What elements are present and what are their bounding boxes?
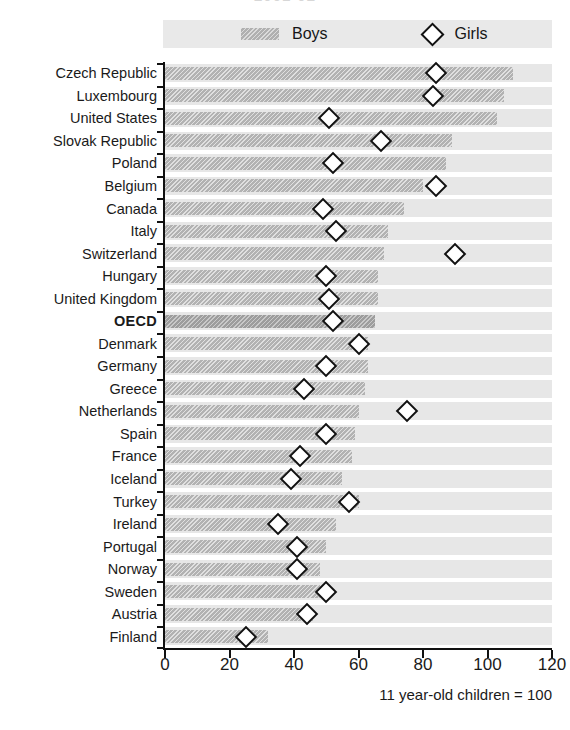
x-axis-tick-label: 80 (414, 655, 433, 675)
bar-boys (165, 360, 368, 373)
x-axis-tick-label: 0 (160, 655, 169, 675)
legend-girls-diamond-icon (420, 22, 444, 46)
category-label: Norway (0, 562, 157, 576)
bar-boys (165, 157, 446, 170)
category-label: Canada (0, 202, 157, 216)
legend-boys-label: Boys (292, 25, 328, 43)
bar-boys (165, 337, 368, 350)
category-label: Germany (0, 359, 157, 373)
x-axis-tick-label: 120 (538, 655, 566, 675)
bar-boys (165, 247, 384, 260)
category-label: Austria (0, 607, 157, 621)
bar-boys (165, 89, 504, 102)
y-axis-tick (157, 559, 164, 561)
category-label: Greece (0, 382, 157, 396)
bar-boys (165, 270, 378, 283)
category-label: Ireland (0, 517, 157, 531)
x-axis-tick-label: 100 (473, 655, 501, 675)
category-axis-labels: Czech RepublicLuxembourgUnited StatesSlo… (0, 62, 157, 648)
category-label: Belgium (0, 179, 157, 193)
bar-boys (165, 202, 404, 215)
category-label: Spain (0, 427, 157, 441)
y-axis-tick (157, 401, 164, 403)
y-axis-tick (157, 108, 164, 110)
category-label: Turkey (0, 495, 157, 509)
y-axis-tick (157, 131, 164, 133)
y-axis-tick (157, 647, 164, 649)
category-label: Poland (0, 156, 157, 170)
chart-legend: Boys Girls (163, 20, 552, 48)
y-axis-tick (157, 288, 164, 290)
category-label: France (0, 449, 157, 463)
x-axis-tick-label: 60 (349, 655, 368, 675)
category-label: OECD (0, 314, 157, 328)
bar-boys (165, 518, 336, 531)
axis-footnote: 11 year-old children = 100 (379, 686, 552, 703)
x-axis-tick-label: 20 (220, 655, 239, 675)
y-axis-tick (157, 581, 164, 583)
category-label: Hungary (0, 269, 157, 283)
bar-boys (165, 67, 513, 80)
bar-boys (165, 134, 452, 147)
category-label: Portugal (0, 540, 157, 554)
bar-boys (165, 472, 342, 485)
x-axis-tick-label: 40 (285, 655, 304, 675)
bar-boys (165, 450, 352, 463)
y-axis-tick (157, 514, 164, 516)
y-axis-tick (157, 626, 164, 628)
bar-boys (165, 225, 388, 238)
category-label: Sweden (0, 585, 157, 599)
y-axis-tick (157, 243, 164, 245)
y-axis-tick (157, 604, 164, 606)
y-axis-tick (157, 198, 164, 200)
category-label: Luxembourg (0, 89, 157, 103)
category-label: Netherlands (0, 404, 157, 418)
bar-boys (165, 585, 320, 598)
bar-boys (165, 405, 359, 418)
y-axis-tick (157, 424, 164, 426)
category-label: Czech Republic (0, 66, 157, 80)
category-label: Italy (0, 224, 157, 238)
bar-boys (165, 382, 365, 395)
y-axis-tick (157, 86, 164, 88)
category-label: Slovak Republic (0, 134, 157, 148)
y-axis-tick (157, 379, 164, 381)
category-label: Denmark (0, 337, 157, 351)
bar-boys (165, 292, 378, 305)
legend-girls-label: Girls (455, 25, 488, 43)
category-label: United Kingdom (0, 292, 157, 306)
y-axis-tick (157, 356, 164, 358)
y-axis-tick (157, 176, 164, 178)
x-axis-tick-labels: 020406080100120 (163, 655, 563, 679)
bar-boys (165, 608, 313, 621)
title-text: 2001-02 (0, 0, 570, 4)
y-axis-tick (157, 63, 164, 65)
y-axis-tick (157, 446, 164, 448)
y-axis-tick (157, 469, 164, 471)
category-label: Finland (0, 630, 157, 644)
y-axis-tick (157, 491, 164, 493)
category-label: Iceland (0, 472, 157, 486)
y-axis-tick (157, 536, 164, 538)
bar-boys (165, 179, 423, 192)
category-label: Switzerland (0, 247, 157, 261)
y-axis-tick (157, 221, 164, 223)
clipped-title: 2001-02 (0, 0, 570, 11)
category-label: United States (0, 111, 157, 125)
chart-container: 2001-02 Boys Girls Czech RepublicLuxembo… (0, 0, 570, 730)
y-axis-tick (157, 311, 164, 313)
y-axis-tick (157, 153, 164, 155)
legend-boys-swatch (241, 28, 279, 40)
y-axis-tick (157, 333, 164, 335)
y-axis-tick (157, 266, 164, 268)
plot-area (163, 62, 552, 648)
bar-boys (165, 495, 359, 508)
